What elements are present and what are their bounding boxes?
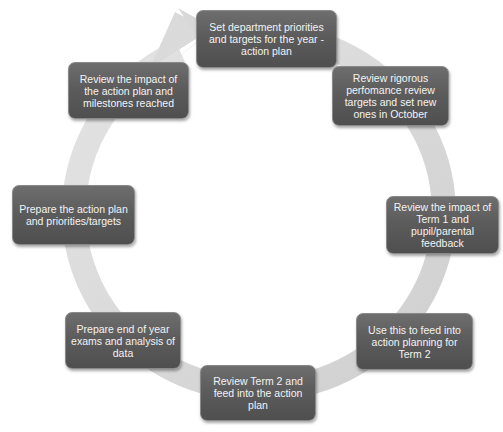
cycle-step-6-label: Prepare end of year exams and analysis o…: [71, 323, 175, 359]
cycle-step-3-label: Review the impact of Term 1 and pupil/pa…: [392, 201, 493, 249]
cycle-step-8-label: Review the impact of the action plan and…: [74, 73, 183, 109]
cycle-step-7-label: Prepare the action plan and priorities/t…: [18, 203, 129, 227]
cycle-step-4: Use this to feed into action planning fo…: [356, 313, 473, 370]
cycle-step-7: Prepare the action plan and priorities/t…: [12, 185, 135, 245]
cycle-step-3: Review the impact of Term 1 and pupil/pa…: [386, 196, 499, 254]
cycle-step-2: Review rigorous perfomance review target…: [332, 66, 449, 126]
cycle-step-4-label: Use this to feed into action planning fo…: [362, 324, 467, 360]
cycle-step-1: Set department priorities and targets fo…: [196, 10, 337, 68]
cycle-step-5-label: Review Term 2 and feed into the action p…: [206, 375, 310, 411]
cycle-step-5: Review Term 2 and feed into the action p…: [200, 365, 316, 421]
cycle-step-8: Review the impact of the action plan and…: [68, 62, 189, 119]
cycle-step-1-label: Set department priorities and targets fo…: [202, 21, 331, 57]
cycle-step-2-label: Review rigorous perfomance review target…: [338, 72, 443, 120]
cycle-step-6: Prepare end of year exams and analysis o…: [65, 312, 181, 369]
